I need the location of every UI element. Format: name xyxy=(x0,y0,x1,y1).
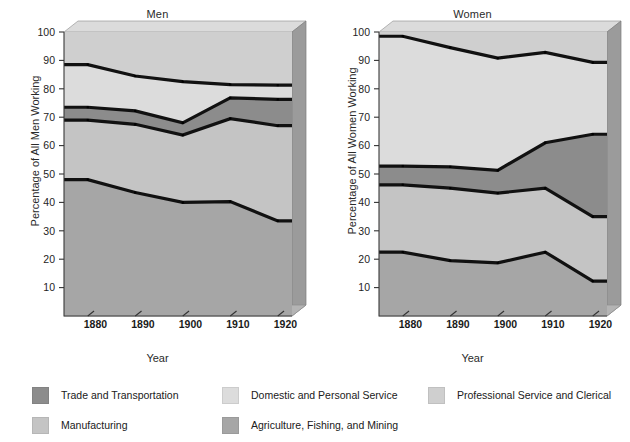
svg-text:90: 90 xyxy=(43,54,55,66)
x-axis-label-men: Year xyxy=(0,352,315,364)
legend-item-label: Manufacturing xyxy=(61,419,128,431)
plot-area-women: 1020304050607080901001880189019001910192… xyxy=(315,0,630,350)
svg-text:70: 70 xyxy=(358,111,370,123)
x-axis-label-women: Year xyxy=(315,352,630,364)
legend-item-label: Domestic and Personal Service xyxy=(251,389,397,401)
svg-text:80: 80 xyxy=(43,83,55,95)
legend-row-2: Manufacturing Agriculture, Fishing, and … xyxy=(0,412,630,438)
svg-text:60: 60 xyxy=(43,139,55,151)
svg-text:100: 100 xyxy=(352,26,370,38)
svg-text:1900: 1900 xyxy=(494,318,518,330)
legend-swatch-icon xyxy=(222,387,239,404)
svg-text:30: 30 xyxy=(43,225,55,237)
svg-text:1880: 1880 xyxy=(84,318,108,330)
legend-item-trade-and-transportation: Trade and Transportation xyxy=(32,382,179,408)
legend-item-label: Agriculture, Fishing, and Mining xyxy=(251,419,398,431)
legend-item-manufacturing: Manufacturing xyxy=(32,412,128,438)
svg-text:1910: 1910 xyxy=(541,318,565,330)
legend-swatch-icon xyxy=(32,387,49,404)
svg-text:90: 90 xyxy=(358,54,370,66)
svg-text:1890: 1890 xyxy=(446,318,470,330)
legend-item-agriculture-fishing-and-mining: Agriculture, Fishing, and Mining xyxy=(222,412,398,438)
svg-text:40: 40 xyxy=(43,196,55,208)
legend-item-domestic-and-personal-service: Domestic and Personal Service xyxy=(222,382,397,408)
legend-row-1: Trade and Transportation Domestic and Pe… xyxy=(0,382,630,408)
svg-text:20: 20 xyxy=(358,253,370,265)
svg-text:70: 70 xyxy=(43,111,55,123)
svg-text:1910: 1910 xyxy=(226,318,250,330)
legend-swatch-icon xyxy=(32,417,49,434)
svg-text:20: 20 xyxy=(43,253,55,265)
svg-text:1890: 1890 xyxy=(131,318,155,330)
legend-item-label: Professional Service and Clerical xyxy=(457,389,611,401)
legend-item-label: Trade and Transportation xyxy=(61,389,179,401)
panel-men: Men Percentage of All Men Working 102030… xyxy=(0,0,315,378)
svg-text:1880: 1880 xyxy=(399,318,423,330)
svg-text:30: 30 xyxy=(358,225,370,237)
svg-text:10: 10 xyxy=(43,281,55,293)
svg-text:10: 10 xyxy=(358,281,370,293)
legend-swatch-icon xyxy=(222,417,239,434)
legend-swatch-icon xyxy=(428,387,445,404)
panel-women: Women Percentage of All Women Working 10… xyxy=(315,0,630,378)
plot-area-men: 1020304050607080901001880189019001910192… xyxy=(0,0,315,350)
svg-text:1900: 1900 xyxy=(179,318,203,330)
figure-occupational-distribution: Men Percentage of All Men Working 102030… xyxy=(0,0,630,442)
legend-item-professional-service-and-clerical: Professional Service and Clerical xyxy=(428,382,611,408)
svg-text:1920: 1920 xyxy=(589,318,613,330)
legend: Trade and Transportation Domestic and Pe… xyxy=(0,382,630,442)
svg-text:80: 80 xyxy=(358,83,370,95)
svg-text:100: 100 xyxy=(37,26,55,38)
svg-text:1920: 1920 xyxy=(274,318,298,330)
svg-text:50: 50 xyxy=(358,168,370,180)
svg-text:50: 50 xyxy=(43,168,55,180)
svg-text:40: 40 xyxy=(358,196,370,208)
svg-text:60: 60 xyxy=(358,139,370,151)
